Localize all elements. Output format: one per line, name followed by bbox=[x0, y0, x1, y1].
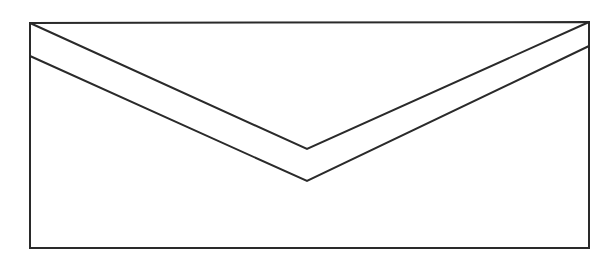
envelope-body bbox=[30, 22, 589, 248]
envelope-flap-inner-line bbox=[30, 46, 589, 181]
envelope-diagram bbox=[0, 0, 615, 258]
